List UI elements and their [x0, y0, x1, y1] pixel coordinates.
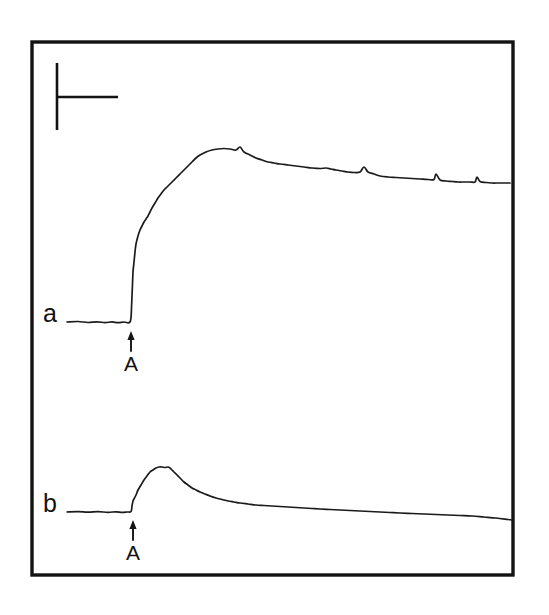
calibration-scale-bar: [57, 63, 118, 130]
recording-figure-svg: a b A A: [0, 0, 549, 615]
stimulus-arrow-b-head: [129, 520, 136, 529]
trace-a-line: [67, 147, 510, 323]
trace-a-label: a: [43, 299, 57, 327]
stimulus-arrow-a: [127, 331, 134, 351]
figure-root: a b A A: [0, 0, 549, 615]
trace-a-stimulus-label: A: [124, 352, 138, 375]
trace-b-line: [67, 467, 512, 520]
figure-frame-border: [32, 42, 513, 575]
stimulus-arrow-a-head: [127, 331, 134, 340]
stimulus-arrow-b: [129, 520, 136, 540]
trace-b-stimulus-label: A: [126, 541, 140, 564]
trace-b-label: b: [43, 489, 57, 517]
